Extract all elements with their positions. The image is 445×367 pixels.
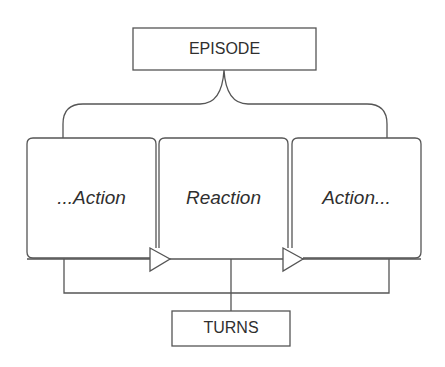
sequence-label-action-left: ...Action	[27, 186, 156, 210]
turns-label: TURNS	[172, 317, 290, 339]
sequence-label-reaction: Reaction	[159, 186, 288, 210]
arrow-1-icon	[150, 248, 170, 271]
sequence-label-action-right: Action...	[292, 186, 421, 210]
turns-bracket	[64, 259, 389, 311]
episode-label: EPISODE	[133, 38, 316, 60]
episode-brace	[63, 70, 387, 138]
arrow-2-icon	[283, 248, 303, 271]
